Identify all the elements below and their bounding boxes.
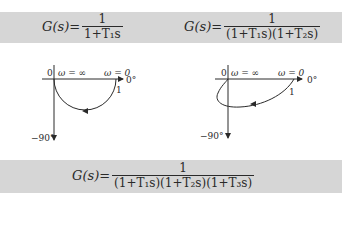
numerator: 1 <box>177 162 189 175</box>
origin-label: 0 <box>221 68 227 78</box>
omega-infinity-label: ω = ∞ <box>58 68 86 78</box>
omega-zero-label: ω = 0 <box>278 68 305 78</box>
unit-point-label: 1 <box>289 87 295 97</box>
polar-plot-second-order: 0 ω = ∞ ω = 0 0° −90° 1 <box>200 65 317 141</box>
formula-lhs: G(s)= <box>72 168 110 183</box>
omega-infinity-label: ω = ∞ <box>231 68 259 78</box>
nyquist-curve <box>54 79 116 110</box>
denominator: (1+T₁s)(1+T₂s)(1+T₃s) <box>112 175 254 189</box>
zero-degree-label: 0° <box>307 75 317 85</box>
unit-point-label: 1 <box>116 85 122 95</box>
direction-arrow-icon <box>82 108 88 114</box>
minus-90-degree-label: −90° <box>200 131 224 141</box>
formula-third-order: G(s)= 1 (1+T₁s)(1+T₂s)(1+T₃s) <box>72 162 254 189</box>
minus-90-degree-label: −90° <box>31 133 55 143</box>
origin-label: 0 <box>47 68 53 78</box>
polar-plot-first-order: 0 ω = ∞ ω = 0 0° −90° 1 <box>31 65 136 143</box>
zero-degree-label: 0° <box>126 75 136 85</box>
fraction: 1 (1+T₁s)(1+T₂s)(1+T₃s) <box>112 162 254 189</box>
